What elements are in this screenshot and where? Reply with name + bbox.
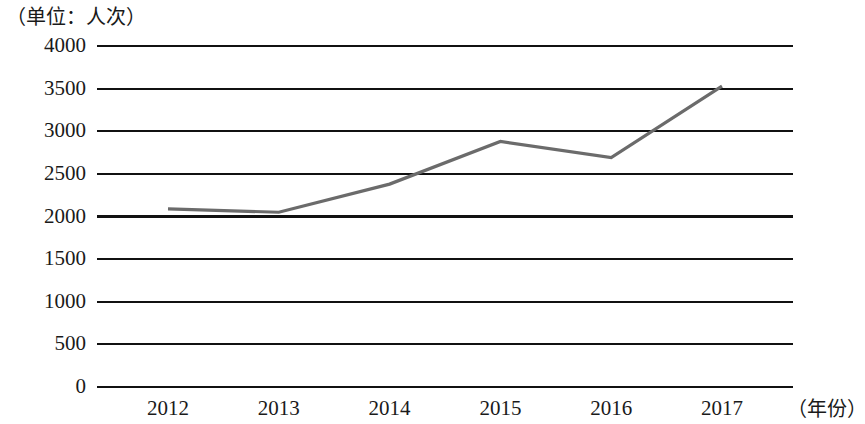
plot-area bbox=[0, 0, 865, 424]
y-tick-label: 4000 bbox=[8, 35, 86, 56]
x-tick-label: 2016 bbox=[566, 398, 656, 419]
x-tick-label: 2012 bbox=[123, 398, 213, 419]
y-tick-label: 3000 bbox=[8, 120, 86, 141]
y-tick-label: 1500 bbox=[8, 248, 86, 269]
gridlines bbox=[97, 46, 793, 387]
y-tick-label: 500 bbox=[8, 333, 86, 354]
y-tick-label: 2500 bbox=[8, 163, 86, 184]
x-tick-label: 2017 bbox=[677, 398, 767, 419]
line-chart: （单位：人次） 05001000150020002500300035004000… bbox=[0, 0, 865, 424]
y-tick-label: 2000 bbox=[8, 206, 86, 227]
y-tick-label: 3500 bbox=[8, 78, 86, 99]
x-tick-label: 2015 bbox=[455, 398, 545, 419]
x-axis-caption: （年份） bbox=[787, 396, 865, 422]
x-tick-label: 2014 bbox=[345, 398, 435, 419]
data-line bbox=[168, 86, 722, 212]
y-tick-label: 1000 bbox=[8, 291, 86, 312]
x-tick-label: 2013 bbox=[234, 398, 324, 419]
data-series-group bbox=[168, 86, 722, 212]
y-tick-label: 0 bbox=[8, 376, 86, 397]
